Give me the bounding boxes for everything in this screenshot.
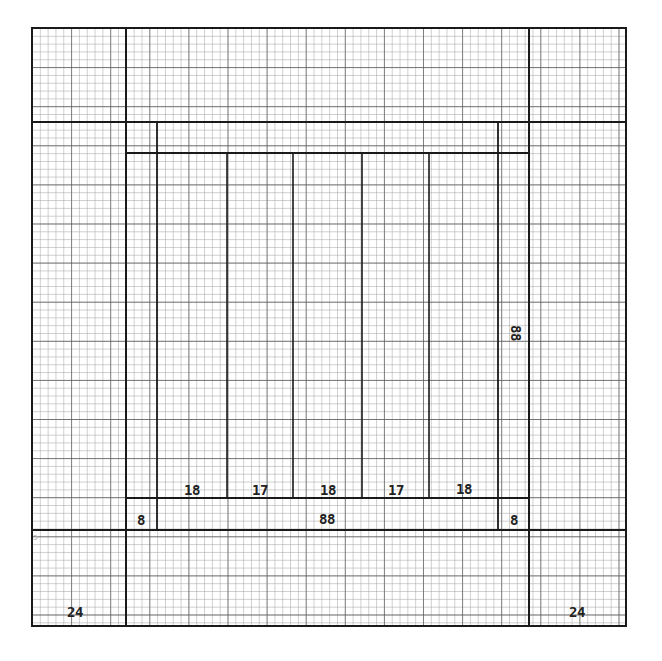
graph-paper-diagram xyxy=(0,0,662,661)
bottom-right-corner-label: 8 xyxy=(510,513,518,527)
strip-1-width-label: 18 xyxy=(184,483,200,497)
bottom-left-corner-label: 8 xyxy=(137,513,145,527)
outer-bottom-left-label: 24 xyxy=(67,605,83,619)
bottom-band-width-label: 88 xyxy=(319,512,335,526)
strip-2-width-label: 17 xyxy=(252,483,268,497)
right-band-height-label: 88 xyxy=(509,325,523,341)
outer-bottom-right-label: 24 xyxy=(569,605,585,619)
strip-4-width-label: 17 xyxy=(388,483,404,497)
strip-5-width-label: 18 xyxy=(456,482,472,496)
strip-3-width-label: 18 xyxy=(320,483,336,497)
grid-paper xyxy=(32,28,626,626)
scan-artifact: ↄ xyxy=(33,532,38,542)
